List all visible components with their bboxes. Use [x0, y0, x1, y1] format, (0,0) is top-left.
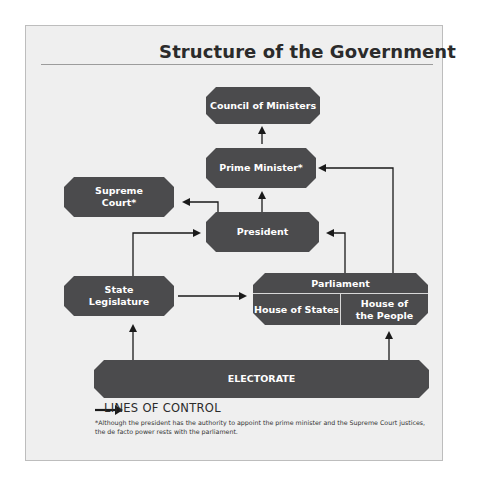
node-house-of-states: House of States	[253, 294, 340, 325]
legend-label: LINES OF CONTROL	[104, 401, 221, 415]
node-president: President	[206, 212, 319, 252]
node-council-of-ministers: Council of Ministers	[206, 87, 320, 124]
parliament-label: Parliament	[253, 273, 428, 293]
node-label: State Legislature	[89, 284, 149, 308]
node-label: House of the People	[355, 298, 415, 322]
node-label: President	[237, 226, 289, 238]
node-label: ELECTORATE	[228, 373, 295, 385]
footnote: *Although the president has the authorit…	[95, 418, 435, 436]
node-house-of-the-people: House of the People	[341, 294, 428, 325]
node-state-legislature: State Legislature	[64, 276, 174, 316]
node-parliament: Parliament House of States House of the …	[253, 273, 428, 325]
node-label: Prime Minister*	[219, 162, 303, 174]
node-electorate: ELECTORATE	[94, 360, 429, 398]
node-label: Supreme Court*	[92, 185, 146, 209]
node-supreme-court: Supreme Court*	[64, 177, 174, 217]
node-prime-minister: Prime Minister*	[206, 148, 316, 188]
node-label: Council of Ministers	[210, 100, 316, 112]
